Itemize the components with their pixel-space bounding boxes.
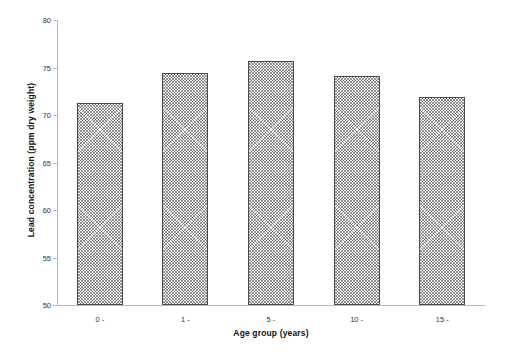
plot-area: 50556065707580 0 -1 -5 -10 -15 - (57, 20, 485, 305)
y-tick-mark (53, 68, 57, 69)
y-tick-mark (53, 210, 57, 211)
x-tick-label: 10 - (350, 315, 363, 324)
y-tick-label: 55 (43, 253, 51, 262)
y-tick-label: 65 (43, 158, 51, 167)
y-axis-line (57, 20, 58, 305)
y-tick-mark (53, 115, 57, 116)
x-tick-label: 15 - (436, 315, 449, 324)
x-tick-label: 5 - (267, 315, 276, 324)
x-tick-label: 1 - (181, 315, 190, 324)
bar (248, 61, 294, 305)
y-tick-label: 70 (43, 111, 51, 120)
y-tick-label: 60 (43, 206, 51, 215)
bar (162, 73, 208, 305)
y-tick-mark (53, 258, 57, 259)
bar (419, 97, 465, 305)
y-tick-label: 75 (43, 63, 51, 72)
y-tick-mark (53, 163, 57, 164)
x-axis-line (57, 305, 485, 306)
y-tick-label: 50 (43, 301, 51, 310)
y-tick-mark (53, 305, 57, 306)
y-axis-title: Lead concentration (ppm dry weight) (22, 10, 40, 310)
y-tick-mark (53, 20, 57, 21)
x-tick-label: 0 - (95, 315, 104, 324)
bar (334, 76, 380, 305)
x-axis-title: Age group (years) (57, 328, 485, 338)
bar-chart-figure: Lead concentration (ppm dry weight) 5055… (0, 0, 506, 355)
y-tick-label: 80 (43, 16, 51, 25)
bar (77, 103, 123, 305)
